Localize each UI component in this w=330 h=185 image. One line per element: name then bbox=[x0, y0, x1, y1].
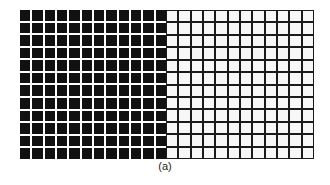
white-square-cell bbox=[167, 86, 177, 96]
white-square-cell bbox=[192, 61, 202, 71]
black-square-cell bbox=[57, 73, 67, 84]
white-square-cell bbox=[204, 148, 214, 158]
white-square-cell bbox=[216, 135, 226, 145]
white-square-cell bbox=[179, 73, 189, 83]
black-square-cell bbox=[143, 98, 153, 109]
white-square-cell bbox=[204, 36, 214, 46]
black-square-cell bbox=[106, 73, 116, 84]
black-square-cell bbox=[119, 148, 129, 159]
white-square-cell bbox=[253, 36, 263, 46]
white-square-cell bbox=[229, 11, 239, 21]
grid-figure bbox=[20, 10, 314, 159]
white-square-cell bbox=[278, 148, 288, 158]
black-square-cell bbox=[20, 98, 30, 109]
black-square-cell bbox=[32, 10, 42, 21]
white-square-cell bbox=[290, 36, 300, 46]
black-square-cell bbox=[131, 60, 141, 71]
black-square-cell bbox=[156, 148, 166, 159]
white-square-cell bbox=[229, 86, 239, 96]
white-square-cell bbox=[266, 36, 276, 46]
black-square-cell bbox=[69, 35, 79, 46]
black-square-cell bbox=[20, 73, 30, 84]
white-square-cell bbox=[167, 135, 177, 145]
black-square-cell bbox=[57, 35, 67, 46]
white-square-cell bbox=[192, 48, 202, 58]
white-square-cell bbox=[179, 123, 189, 133]
black-square-cell bbox=[69, 148, 79, 159]
black-square-cell bbox=[57, 98, 67, 109]
black-square-cell bbox=[119, 10, 129, 21]
white-square-cell bbox=[278, 36, 288, 46]
white-square-cell bbox=[192, 98, 202, 108]
white-square-cell bbox=[278, 48, 288, 58]
white-square-cell bbox=[229, 23, 239, 33]
black-square-cell bbox=[45, 85, 55, 96]
black-square-cell bbox=[69, 10, 79, 21]
white-square-cell bbox=[266, 123, 276, 133]
white-square-cell bbox=[167, 73, 177, 83]
black-square-cell bbox=[57, 48, 67, 59]
black-square-cell bbox=[82, 98, 92, 109]
black-square-cell bbox=[119, 35, 129, 46]
white-square-cell bbox=[192, 11, 202, 21]
black-square-cell bbox=[131, 48, 141, 59]
black-square-cell bbox=[69, 73, 79, 84]
white-square-cell bbox=[290, 61, 300, 71]
white-square-cell bbox=[167, 23, 177, 33]
black-square-cell bbox=[106, 148, 116, 159]
black-square-cell bbox=[131, 123, 141, 134]
black-square-cell bbox=[20, 123, 30, 134]
white-square-cell bbox=[216, 98, 226, 108]
black-square-cell bbox=[143, 123, 153, 134]
white-square-cell bbox=[278, 123, 288, 133]
black-square-cell bbox=[156, 35, 166, 46]
black-square-cell bbox=[32, 111, 42, 122]
black-square-cell bbox=[131, 148, 141, 159]
black-square-cell bbox=[106, 35, 116, 46]
black-square-cell bbox=[156, 10, 166, 21]
black-square-cell bbox=[45, 60, 55, 71]
white-square-cell bbox=[290, 23, 300, 33]
black-square-cell bbox=[156, 136, 166, 147]
white-square-cell bbox=[229, 73, 239, 83]
black-square-cell bbox=[156, 98, 166, 109]
black-square-cell bbox=[57, 60, 67, 71]
white-square-cell bbox=[303, 86, 313, 96]
black-square-cell bbox=[156, 123, 166, 134]
white-square-cell bbox=[303, 48, 313, 58]
white-square-cell bbox=[290, 110, 300, 120]
black-square-cell bbox=[45, 148, 55, 159]
white-square-cell bbox=[216, 61, 226, 71]
black-square-cell bbox=[94, 35, 104, 46]
white-square-cell bbox=[253, 48, 263, 58]
white-square-cell bbox=[229, 148, 239, 158]
black-square-cell bbox=[119, 73, 129, 84]
white-square-cell bbox=[253, 110, 263, 120]
black-square-cell bbox=[143, 60, 153, 71]
black-square-cell bbox=[106, 136, 116, 147]
black-square-cell bbox=[143, 148, 153, 159]
white-square-cell bbox=[192, 36, 202, 46]
white-square-cell bbox=[179, 11, 189, 21]
white-square-cell bbox=[241, 36, 251, 46]
white-square-cell bbox=[216, 110, 226, 120]
black-square-cell bbox=[143, 23, 153, 34]
white-square-cell bbox=[192, 73, 202, 83]
white-square-cell bbox=[241, 123, 251, 133]
black-square-cell bbox=[20, 35, 30, 46]
black-square-cell bbox=[156, 23, 166, 34]
white-square-cell bbox=[253, 123, 263, 133]
white-square-cell bbox=[192, 148, 202, 158]
white-square-cell bbox=[278, 86, 288, 96]
black-square-cell bbox=[69, 98, 79, 109]
black-square-cell bbox=[69, 123, 79, 134]
black-square-cell bbox=[106, 23, 116, 34]
white-square-cell bbox=[229, 135, 239, 145]
white-square-cell bbox=[290, 98, 300, 108]
black-square-cell bbox=[45, 123, 55, 134]
white-square-cell bbox=[229, 61, 239, 71]
black-square-cell bbox=[143, 10, 153, 21]
white-square-cell bbox=[290, 48, 300, 58]
figure-caption: (a) bbox=[0, 160, 330, 172]
white-square-cell bbox=[229, 36, 239, 46]
